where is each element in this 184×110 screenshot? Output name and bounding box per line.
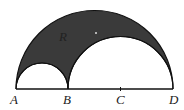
point-label-d: D [168,92,179,107]
point-label-a: A [9,92,18,107]
point-label-b: B [63,92,71,107]
region-label-r: R [58,29,67,44]
center-dot [95,32,97,34]
semicircle-diagram: R A B C D [0,0,184,110]
point-label-c: C [116,92,125,107]
shaded-region-r [16,10,173,89]
